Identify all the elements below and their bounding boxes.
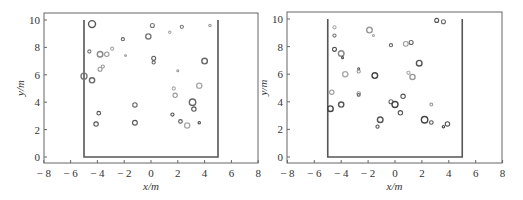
x-tick-label: 6 [473, 167, 479, 179]
data-point [342, 57, 344, 59]
x-tick-label: − 4 [90, 167, 105, 179]
plot-right-svg: − 8− 6− 4− 2024680246810x/my/m [262, 0, 523, 200]
data-point [125, 55, 127, 57]
data-point [198, 122, 200, 124]
data-point [430, 121, 434, 125]
y-tick-label: 0 [278, 151, 284, 163]
data-point [409, 40, 413, 44]
data-point [421, 117, 427, 123]
x-tick-label: − 2 [117, 167, 131, 179]
data-point [401, 94, 405, 98]
data-point [189, 99, 195, 105]
data-point [333, 34, 336, 37]
data-point [169, 31, 171, 33]
y-tick-label: 0 [35, 151, 41, 163]
data-point [445, 122, 449, 126]
y-tick-label: 10 [29, 14, 41, 26]
data-point [372, 73, 378, 79]
data-point [398, 111, 402, 115]
data-point [121, 38, 124, 41]
data-point [152, 61, 155, 64]
y-tick-label: 10 [272, 13, 284, 25]
data-point [372, 35, 374, 37]
data-point [392, 102, 398, 108]
data-point [442, 125, 444, 127]
x-tick-label: 4 [202, 167, 208, 179]
data-point [202, 58, 208, 64]
x-tick-label: 6 [229, 167, 235, 179]
data-point [377, 117, 383, 123]
data-point [89, 78, 94, 83]
data-point [338, 51, 344, 57]
y-tick-label: 8 [35, 41, 41, 53]
data-point [105, 52, 109, 56]
data-point [171, 113, 174, 116]
scatter-plot-right: − 8− 6− 4− 2024680246810x/my/m [262, 0, 523, 200]
data-point [410, 74, 415, 79]
x-tick-label: − 8 [280, 167, 295, 179]
data-point [172, 87, 175, 90]
data-point [133, 120, 138, 125]
data-point [179, 120, 183, 124]
y-tick-label: 6 [278, 68, 284, 80]
data-point [441, 20, 445, 24]
data-point [416, 60, 422, 66]
data-point [150, 23, 154, 27]
x-tick-label: 2 [175, 167, 181, 179]
data-point [146, 34, 151, 39]
data-point [389, 44, 392, 47]
data-point [94, 122, 98, 126]
data-point [330, 90, 334, 94]
y-tick-label: 2 [35, 124, 41, 136]
x-axis-label: x/m [386, 180, 403, 192]
data-point [332, 47, 336, 51]
x-tick-label: − 8 [37, 167, 52, 179]
data-point [185, 123, 190, 128]
data-point [133, 103, 137, 107]
y-tick-label: 4 [278, 96, 284, 108]
data-point [88, 50, 91, 53]
data-point [333, 26, 336, 29]
data-point [111, 47, 114, 50]
x-tick-label: 4 [446, 167, 452, 179]
data-point [180, 25, 183, 28]
data-point [430, 103, 433, 106]
y-axis-label: y/m [14, 80, 26, 97]
data-point [152, 56, 156, 60]
data-point [197, 83, 202, 88]
plot-frame [287, 12, 502, 163]
data-point [192, 107, 196, 111]
x-tick-label: 8 [255, 167, 261, 179]
data-point [209, 24, 211, 26]
x-tick-label: − 2 [361, 167, 375, 179]
x-tick-label: − 6 [63, 167, 78, 179]
x-axis-label: x/m [142, 180, 159, 192]
y-tick-label: 2 [278, 123, 284, 135]
data-point [97, 111, 101, 115]
data-point [376, 125, 379, 128]
x-tick-label: 0 [148, 167, 154, 179]
x-tick-label: 0 [392, 167, 398, 179]
data-point [97, 51, 103, 57]
x-tick-label: − 4 [334, 167, 349, 179]
y-axis-label: y/m [262, 80, 269, 97]
plot-left-svg: − 8− 6− 4− 2024680246810x/my/m [0, 0, 262, 200]
data-point [343, 72, 348, 77]
data-point [101, 65, 104, 68]
data-point [367, 27, 373, 33]
data-point [177, 70, 179, 72]
x-tick-label: 2 [419, 167, 425, 179]
data-point [357, 70, 360, 73]
x-tick-label: 8 [500, 167, 506, 179]
data-point [173, 93, 177, 97]
data-point [407, 71, 410, 74]
x-tick-label: − 6 [307, 167, 322, 179]
boundary-walls [328, 19, 463, 157]
scatter-plot-left: − 8− 6− 4− 2024680246810x/my/m [0, 0, 262, 200]
data-point [339, 102, 344, 107]
y-tick-label: 8 [278, 41, 284, 53]
y-tick-label: 4 [35, 96, 41, 108]
data-point [435, 18, 439, 22]
data-point [89, 21, 96, 28]
y-tick-label: 6 [35, 69, 41, 81]
